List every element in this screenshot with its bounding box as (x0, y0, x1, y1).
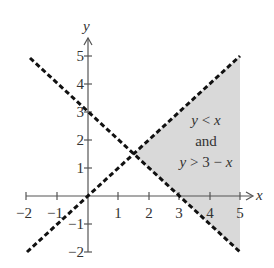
annotation-line-3: y > 3 − x (178, 154, 233, 170)
x-axis-label: x (255, 187, 263, 203)
x-tick-label: 4 (206, 205, 214, 221)
y-tick-label: 5 (77, 48, 85, 64)
x-tick-label: −1 (47, 205, 63, 221)
x-tick-label: 1 (114, 205, 122, 221)
y-tick-label: 2 (77, 132, 85, 148)
x-tick-labels: −2 −1 1 2 3 4 5 (16, 205, 244, 221)
annotation-line-2: and (195, 133, 217, 149)
y-tick-labels: −2 −1 1 2 3 4 5 (68, 48, 84, 260)
x-tick-label: 5 (236, 205, 244, 221)
x-tick-label: −2 (16, 205, 32, 221)
y-tick-label: 4 (77, 76, 85, 92)
y-tick-label: 1 (77, 160, 85, 176)
x-tick-label: 2 (145, 205, 153, 221)
y-axis-label: y (81, 18, 90, 34)
x-tick-label: 3 (175, 205, 183, 221)
y-tick-label: −1 (68, 216, 84, 232)
y-tick-label: 3 (77, 104, 85, 120)
annotation-line-1: y < x (189, 112, 221, 128)
y-tick-label: −2 (68, 244, 84, 260)
inequality-graph: y x −2 −1 1 2 3 4 5 −2 −1 1 2 3 4 5 y < … (0, 0, 274, 268)
